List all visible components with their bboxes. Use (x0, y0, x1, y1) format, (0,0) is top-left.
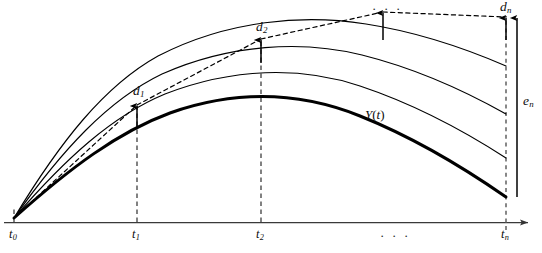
axis-ellipsis: · · · (380, 229, 411, 242)
curve-perturbed-1 (14, 73, 506, 218)
label-solution-curve: Y(t) (365, 108, 385, 121)
label-paren-close: ) (380, 107, 384, 122)
axis-tick-tn-sub: n (504, 233, 508, 242)
axis-tick-t1-sub: 1 (135, 233, 139, 242)
label-d1-base: d (133, 83, 140, 98)
label-en: en (523, 94, 534, 109)
local-error-arrows (137, 13, 506, 129)
label-d1: d1 (133, 84, 145, 99)
axis-tick-t0-sub: 0 (12, 233, 16, 242)
label-dn-base: d (500, 0, 507, 14)
curve-perturbed-2 (14, 47, 506, 218)
extrapolation-segment-0 (14, 105, 137, 218)
label-dn: dn (500, 0, 512, 15)
axis-tick-label-tn: tn (501, 228, 509, 243)
axis-tick-label-t2: t2 (256, 228, 264, 243)
axis-tick-label-t0: t0 (9, 228, 17, 243)
extrapolation-segment-1 (137, 39, 261, 105)
curve-perturbed-3 (14, 20, 506, 218)
label-d1-sub: 1 (140, 89, 145, 99)
label-dn-sub: n (507, 5, 512, 15)
top-ellipsis: · · · (372, 2, 403, 15)
axis-tick-t2-sub: 2 (259, 233, 263, 242)
error-diagram-figure: d1 d2 dn en · · · Y(t) t0 t1 t2 tn · · · (0, 0, 542, 253)
label-d2-sub: 2 (263, 25, 268, 35)
label-en-sub: n (529, 99, 534, 109)
diagram-canvas (0, 0, 542, 253)
label-d2: d2 (256, 20, 268, 35)
extrapolation-segment-2 (261, 12, 383, 39)
axis-tick-label-t1: t1 (132, 228, 140, 243)
label-d2-base: d (256, 19, 263, 34)
